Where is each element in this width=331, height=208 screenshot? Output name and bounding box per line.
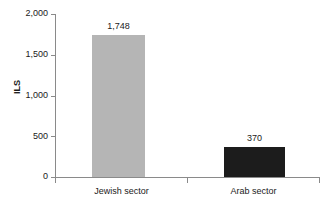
x-tick-mark [55,178,56,183]
x-tick-mark [319,178,320,183]
y-tick-label: 2,000 [12,9,48,18]
y-tick-mark [51,14,56,15]
y-tick-label: 1,000 [12,91,48,100]
y-tick-2000: 2,000 [12,9,48,18]
y-tick-label: 500 [12,132,48,141]
y-tick-label: 0 [12,172,48,181]
category-label-arab-sector: Arab sector [188,186,319,196]
y-tick-mark [51,55,56,56]
y-tick-1000: 1,000 [12,91,48,100]
bar-value-label: 1,748 [92,22,145,31]
x-tick-mark [187,178,188,183]
bar-jewish-sector[interactable] [92,35,145,177]
y-tick-label: 1,500 [12,50,48,59]
y-tick-1500: 1,500 [12,50,48,59]
bar-arab-sector[interactable] [224,147,285,177]
y-tick-mark [51,96,56,97]
bar-value-label: 370 [224,134,285,143]
y-tick-0: 0 [12,172,48,181]
bar-chart: ILS 2,000 1,500 1,000 500 0 1,748 370 Je… [0,0,331,208]
y-tick-mark [51,136,56,137]
category-label-jewish-sector: Jewish sector [56,186,187,196]
y-tick-500: 500 [12,132,48,141]
